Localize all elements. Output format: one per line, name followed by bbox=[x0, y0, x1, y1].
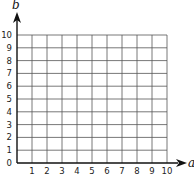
x-tick-label: 10 bbox=[162, 166, 173, 176]
y-tick-label: 1 bbox=[7, 145, 12, 155]
x-tick-label: 3 bbox=[59, 166, 64, 176]
x-tick-label: 4 bbox=[74, 166, 79, 176]
y-tick-label: 6 bbox=[7, 81, 12, 91]
y-tick-label: 2 bbox=[7, 132, 12, 142]
y-tick-label: 8 bbox=[7, 56, 12, 66]
y-axis-label: b bbox=[12, 0, 20, 12]
y-tick-label: 5 bbox=[7, 94, 12, 104]
x-tick-labels: 12345678910 bbox=[29, 166, 172, 176]
grid-lines bbox=[17, 35, 167, 163]
x-tick-label: 5 bbox=[89, 166, 94, 176]
coordinate-grid-chart: 12345678910 012345678910 b a bbox=[0, 0, 194, 182]
x-tick-label: 8 bbox=[134, 166, 139, 176]
y-tick-label: 3 bbox=[7, 120, 12, 130]
x-tick-label: 6 bbox=[104, 166, 109, 176]
y-tick-label: 0 bbox=[7, 158, 12, 168]
y-tick-label: 9 bbox=[7, 43, 12, 53]
x-axis-label: a bbox=[188, 156, 194, 170]
x-tick-label: 7 bbox=[119, 166, 124, 176]
x-tick-label: 2 bbox=[44, 166, 49, 176]
y-tick-label: 4 bbox=[7, 107, 12, 117]
y-tick-label: 10 bbox=[1, 30, 12, 40]
x-tick-label: 1 bbox=[29, 166, 34, 176]
x-tick-label: 9 bbox=[149, 166, 154, 176]
y-tick-labels: 012345678910 bbox=[1, 30, 12, 168]
y-tick-label: 7 bbox=[7, 68, 12, 78]
